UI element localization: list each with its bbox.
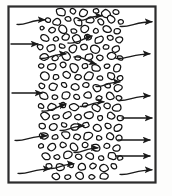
bed-particle (39, 83, 45, 88)
bed-particle (117, 76, 123, 81)
bed-particle (90, 163, 97, 169)
bed-particle (114, 29, 121, 34)
bed-particle (60, 142, 66, 147)
bed-particle (93, 9, 99, 13)
bed-particle (65, 17, 71, 22)
bed-particle (37, 45, 43, 50)
bed-particle (59, 25, 67, 33)
bed-particle (108, 73, 115, 80)
bed-particle (103, 45, 109, 50)
packed-bed-flow-figure (0, 0, 172, 196)
bed-particle (71, 29, 77, 33)
bed-particle (92, 65, 100, 71)
bed-particle (97, 136, 102, 141)
bed-particle (84, 92, 92, 98)
bed-particle (59, 44, 65, 48)
bed-particle (61, 83, 66, 88)
bed-particle (69, 45, 77, 53)
bed-particle (93, 124, 101, 131)
bed-particle (114, 64, 121, 72)
bed-particle (70, 64, 78, 73)
bed-particle (112, 104, 121, 111)
bed-particle (105, 123, 111, 128)
bed-particle (64, 151, 72, 158)
bed-particle (53, 115, 60, 120)
bed-particle (113, 145, 120, 151)
bed-particle (54, 155, 60, 160)
bed-particle (79, 9, 87, 16)
bed-particle (78, 163, 85, 170)
bed-particle (52, 135, 58, 140)
bed-particle (69, 104, 79, 111)
bed-particle (75, 114, 82, 119)
bed-particle (39, 144, 44, 148)
bed-particle (112, 46, 119, 53)
bed-particle (47, 64, 56, 71)
bed-particle (38, 104, 43, 109)
bed-particle (82, 142, 88, 147)
bed-particle (52, 173, 60, 179)
bed-particle (100, 173, 108, 179)
bed-particle (111, 164, 117, 169)
figure-canvas (0, 0, 172, 196)
bed-particle (104, 103, 110, 109)
bed-particle (56, 8, 65, 15)
bed-particle (75, 154, 81, 159)
bed-particle (97, 55, 104, 60)
bed-particle (108, 153, 116, 160)
bed-particle (76, 172, 84, 179)
bed-particle (83, 122, 90, 127)
bed-particle (100, 164, 109, 171)
bed-particle (71, 84, 79, 90)
bed-particle (62, 52, 71, 61)
bed-particle (107, 52, 116, 59)
bed-particle (91, 45, 100, 53)
bed-particle (89, 175, 95, 180)
bed-particle (96, 96, 102, 101)
bed-particle (74, 94, 80, 99)
bed-particle (52, 95, 58, 100)
bed-particle (118, 20, 123, 25)
bed-particle (40, 72, 49, 80)
bed-particle (107, 133, 114, 140)
bed-particle (81, 25, 89, 32)
bed-particle (99, 156, 104, 161)
bed-particle (49, 124, 57, 131)
bed-particle (104, 143, 110, 148)
bed-particle (60, 62, 66, 68)
bed-particle (75, 75, 82, 80)
bed-particle (82, 64, 88, 69)
bed-particle (98, 116, 103, 121)
bed-particle (47, 45, 55, 52)
bed-particle (45, 18, 50, 23)
bed-particle (84, 112, 93, 119)
bed-particle (39, 123, 45, 129)
bed-particle (49, 83, 57, 90)
bed-particle (116, 37, 123, 43)
bed-particle (74, 134, 81, 140)
bed-particle (53, 18, 61, 25)
bed-particle (93, 28, 98, 33)
bed-particle (40, 26, 44, 30)
bed-particle (104, 64, 110, 68)
bed-particle (53, 37, 58, 41)
bed-particle (62, 92, 70, 99)
bed-particle (65, 175, 71, 179)
bed-particle (81, 44, 88, 50)
bed-particle (97, 76, 103, 80)
bed-particle (70, 8, 76, 14)
bed-particle (53, 75, 59, 80)
bed-particle (83, 83, 89, 88)
bed-particle (61, 123, 66, 127)
bed-particle (113, 10, 119, 15)
bed-particle (49, 27, 56, 32)
bed-particle (107, 35, 113, 40)
bed-particle (39, 64, 44, 68)
bed-particle (63, 71, 71, 78)
